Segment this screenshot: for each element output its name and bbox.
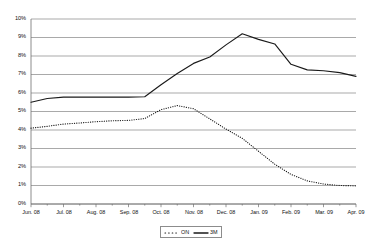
y-tick-label: 6% [4, 90, 26, 96]
y-tick-label: 10% [4, 16, 26, 22]
legend-label-3m[interactable]: 3M [210, 230, 218, 235]
y-tick-label: 2% [4, 164, 26, 170]
y-tick-label: 5% [4, 109, 26, 115]
y-tick-label: 8% [4, 53, 26, 59]
series-group [31, 34, 356, 186]
line-chart: 0%1%2%3%4%5%6%7%8%9%10% Jun. 08Jul. 08Au… [0, 0, 373, 245]
y-tick-label: 0% [4, 201, 26, 207]
y-tick-label: 3% [4, 146, 26, 152]
legend-label-on[interactable]: ON [181, 230, 189, 235]
series-line-3m [31, 34, 356, 102]
y-tick-label: 4% [4, 127, 26, 133]
y-tick-label: 1% [4, 183, 26, 189]
y-tick-label: 7% [4, 72, 26, 78]
series-line-on [31, 106, 356, 186]
legend-entries: ON3M [161, 227, 223, 239]
x-tick-label: Apr. 09 [334, 210, 373, 215]
x-axis-group [31, 204, 356, 207]
gridlines-group [31, 19, 356, 204]
chart-legend[interactable]: ON3M [160, 226, 222, 238]
y-tick-label: 9% [4, 35, 26, 41]
